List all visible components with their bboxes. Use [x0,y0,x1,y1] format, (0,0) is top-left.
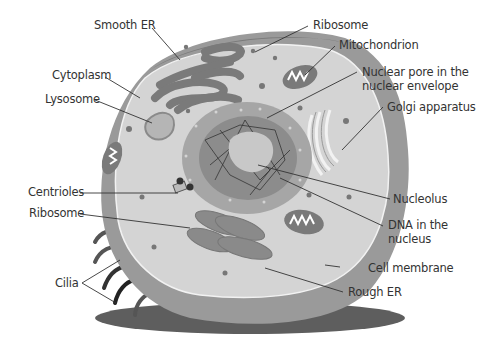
label-lysosome: Lysosome [45,92,100,106]
label-dna: DNA in the nucleus [388,218,450,246]
label-cilia: Cilia [55,276,79,290]
label-cytoplasm: Cytoplasm [52,68,111,82]
label-nuclear-pore: Nuclear pore in the nuclear envelope [362,65,472,93]
label-rough-er: Rough ER [348,285,402,299]
label-mitochondrion: Mitochondrion [339,38,419,52]
label-centrioles: Centrioles [28,185,84,199]
label-ribosome-left: Ribosome [29,206,84,220]
label-ribosome-top: Ribosome [313,18,368,32]
label-cell-membrane: Cell membrane [368,261,453,275]
label-nucleolus: Nucleolus [393,192,447,206]
label-golgi-apparatus: Golgi apparatus [387,100,476,114]
label-smooth-er: Smooth ER [94,18,155,32]
